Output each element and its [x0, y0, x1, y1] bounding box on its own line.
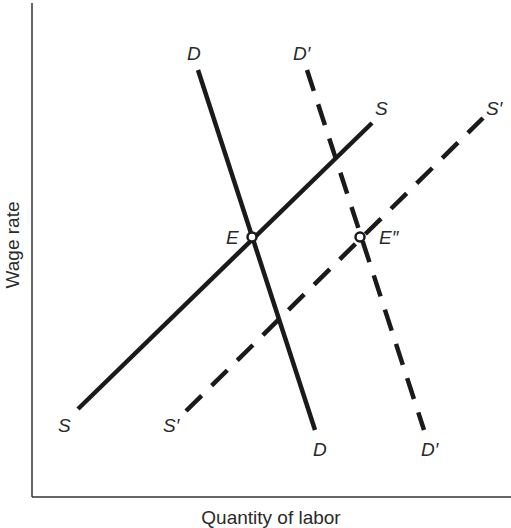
label-s-top: S: [375, 98, 388, 119]
label-d-prime-bottom: D′: [421, 439, 440, 460]
label-d-top: D: [187, 43, 201, 64]
supply-curve-s: [78, 123, 372, 409]
label-e: E: [226, 227, 239, 248]
label-s-bottom: S: [58, 415, 71, 436]
demand-curve-d-prime: [307, 70, 424, 430]
demand-curve-d: [198, 70, 315, 430]
label-s-prime-bottom: S′: [163, 415, 181, 436]
labor-market-diagram: Wage rate Quantity of labor D D D′ D′ S …: [0, 0, 511, 528]
label-s-prime-top: S′: [486, 98, 504, 119]
equilibrium-point-e: [248, 233, 257, 242]
x-axis-label: Quantity of labor: [201, 507, 341, 528]
label-e-double-prime: E″: [379, 227, 400, 248]
label-d-bottom: D: [313, 439, 327, 460]
label-d-prime-top: D′: [293, 43, 312, 64]
equilibrium-point-e-double-prime: [356, 233, 365, 242]
y-axis-label: Wage rate: [2, 202, 23, 289]
